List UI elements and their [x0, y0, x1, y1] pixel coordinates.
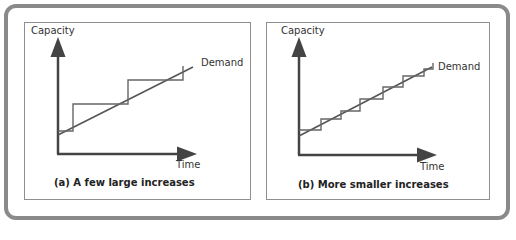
x-axis-label: Time [420, 161, 444, 172]
chart-a-plot [25, 23, 250, 199]
demand-label: Demand [438, 61, 480, 72]
capacity-steps [58, 66, 183, 131]
chart-b-plot [267, 23, 489, 199]
panel-a: Capacity Demand Time (a) A few large inc… [24, 22, 251, 200]
caption: (b) More smaller increases [298, 179, 449, 190]
demand-line [58, 67, 193, 135]
y-axis-label: Capacity [281, 25, 325, 36]
panel-b: Capacity Demand Time (b) More smaller in… [266, 22, 490, 200]
y-axis-label: Capacity [31, 25, 75, 36]
demand-label: Demand [201, 57, 243, 68]
caption: (a) A few large increases [54, 177, 195, 188]
capacity-steps [299, 63, 433, 130]
demand-line [299, 67, 432, 136]
x-axis-label: Time [176, 159, 200, 170]
